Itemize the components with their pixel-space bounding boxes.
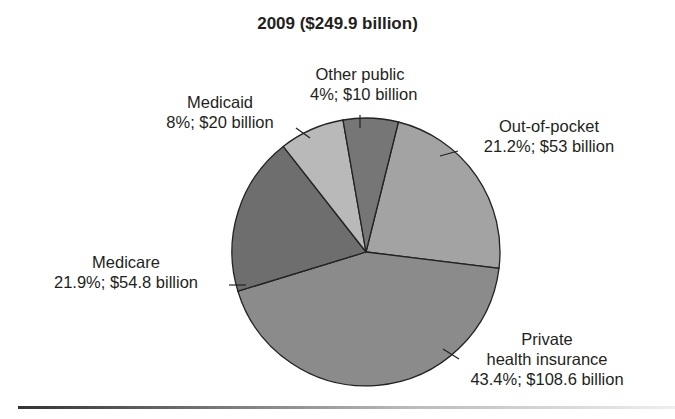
label-medicare: Medicare 21.9%; $54.8 billion — [28, 252, 224, 292]
label-name: Medicare — [28, 252, 224, 272]
label-detail: 8%; $20 billion — [150, 112, 290, 132]
label-other-public: Other public 4%; $10 billion — [310, 64, 410, 104]
label-detail: 43.4%; $108.6 billion — [440, 369, 654, 389]
label-name: Out-of-pocket — [464, 116, 634, 136]
label-name-2: health insurance — [440, 349, 654, 369]
label-name: Other public — [310, 64, 410, 84]
label-detail: 21.2%; $53 billion — [464, 136, 634, 156]
label-medicaid: Medicaid 8%; $20 billion — [150, 92, 290, 132]
label-name: Medicaid — [150, 92, 290, 112]
label-out-of-pocket: Out-of-pocket 21.2%; $53 billion — [464, 116, 634, 156]
label-name: Private — [440, 329, 654, 349]
label-detail: 21.9%; $54.8 billion — [28, 272, 224, 292]
label-private-health-insurance: Private health insurance 43.4%; $108.6 b… — [440, 329, 654, 389]
bottom-rule — [18, 406, 675, 409]
label-detail: 4%; $10 billion — [310, 84, 410, 104]
